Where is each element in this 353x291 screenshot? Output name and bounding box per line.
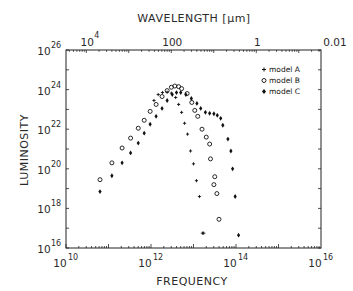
svg-text:16: 16 (323, 253, 333, 262)
top-tick-label: 0.01 (323, 36, 346, 48)
luminosity-frequency-chart: WAVELENGTH [μm] 101010121014101610161018… (0, 0, 353, 291)
svg-text:10: 10 (53, 257, 66, 269)
y-tick-label: 1026 (37, 41, 61, 57)
top-tick-label: 104 (81, 31, 100, 48)
svg-text:26: 26 (51, 41, 61, 50)
x-axis-title: FREQUENCY (156, 275, 228, 288)
svg-text:4: 4 (94, 31, 99, 40)
y-tick-label: 1016 (37, 239, 61, 255)
svg-text:18: 18 (51, 199, 61, 208)
legend-label: model C (269, 87, 300, 96)
svg-text:20: 20 (51, 160, 61, 169)
legend-item-model-c: model C (262, 87, 300, 96)
series-model-a (152, 91, 205, 235)
legend-label: model A (269, 65, 301, 74)
svg-text:16: 16 (51, 239, 61, 248)
series-model-b (98, 84, 221, 221)
svg-text:10: 10 (223, 257, 236, 269)
svg-text:24: 24 (51, 81, 61, 90)
svg-text:0.01: 0.01 (323, 36, 346, 48)
svg-text:10: 10 (37, 243, 50, 255)
top-tick-label: 100 (162, 36, 182, 48)
y-tick-label: 1024 (37, 81, 61, 97)
x-tick-label: 1010 (53, 253, 78, 269)
filled-diamond-marker-icon (262, 89, 266, 94)
svg-text:10: 10 (37, 164, 50, 176)
svg-text:100: 100 (162, 36, 182, 48)
svg-text:22: 22 (51, 120, 61, 129)
plus-marker-icon (262, 68, 266, 72)
svg-text:14: 14 (238, 253, 248, 262)
legend: model A model B model C (262, 65, 301, 96)
x-tick-label: 1014 (223, 253, 248, 269)
top-axis-title: WAVELENGTH [μm] (137, 12, 250, 25)
y-tick-label: 1020 (37, 160, 61, 176)
y-tick-label: 1022 (37, 120, 61, 136)
svg-text:10: 10 (81, 36, 94, 48)
open-circle-marker-icon (262, 79, 266, 83)
legend-item-model-a: model A (262, 65, 301, 74)
svg-text:10: 10 (37, 85, 50, 97)
x-tick-label: 1016 (308, 253, 333, 269)
legend-label: model B (269, 76, 300, 85)
svg-text:10: 10 (37, 203, 50, 215)
x-tick-label: 1012 (138, 253, 163, 269)
top-tick-label: 1 (254, 36, 261, 48)
legend-item-model-b: model B (262, 76, 300, 85)
axis-tick-labels: 1010101210141016101610181020102210241026… (37, 31, 346, 269)
svg-text:12: 12 (153, 253, 163, 262)
series-model-c (98, 90, 240, 237)
svg-text:10: 10 (37, 124, 50, 136)
svg-text:10: 10 (138, 257, 151, 269)
svg-text:10: 10 (308, 257, 321, 269)
svg-text:10: 10 (37, 45, 50, 57)
svg-text:1: 1 (254, 36, 261, 48)
svg-text:10: 10 (68, 253, 78, 262)
data-points (98, 84, 240, 237)
y-axis-title: LUMINOSITY (18, 114, 31, 186)
y-tick-label: 1018 (37, 199, 61, 215)
